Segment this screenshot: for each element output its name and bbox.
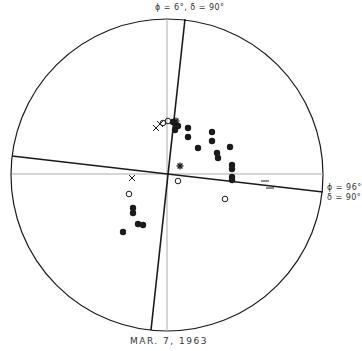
filled-point — [185, 134, 191, 140]
filled-point — [130, 210, 136, 216]
date-caption: MAR. 7, 1963 — [130, 336, 208, 346]
cross-point — [129, 175, 135, 181]
star-point — [177, 163, 184, 170]
filled-data-points — [120, 119, 235, 235]
right-axis-label-phi: ϕ = 96° — [327, 183, 362, 192]
star-point — [173, 118, 180, 125]
right-axis-label-delta: δ = 90° — [327, 193, 361, 202]
filled-point — [209, 129, 215, 135]
cross-point — [153, 125, 159, 131]
open-point — [126, 191, 132, 197]
filled-point — [209, 138, 215, 144]
open-point — [175, 178, 181, 184]
filled-point — [140, 222, 146, 228]
filled-point — [185, 125, 191, 131]
filled-point — [120, 229, 126, 235]
top-axis-label: ϕ = 6°, δ = 90° — [155, 3, 225, 12]
filled-point — [195, 145, 201, 151]
filled-point — [227, 144, 233, 150]
open-point — [165, 118, 171, 124]
filled-point — [215, 155, 221, 161]
filled-point — [229, 166, 235, 172]
open-point — [222, 196, 228, 202]
filled-point — [229, 177, 235, 183]
